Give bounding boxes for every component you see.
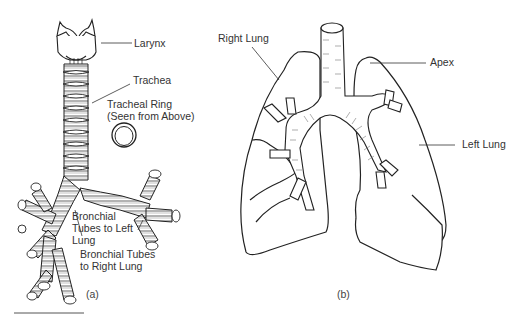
tracheal-ring-drawing — [112, 123, 136, 147]
diagram-canvas — [0, 0, 523, 320]
label-bronchial-tubes-right-lung: Bronchial Tubes to Right Lung — [80, 248, 155, 272]
caption-a: (a) — [86, 288, 99, 300]
label-apex: Apex — [430, 56, 454, 68]
label-trachea: Trachea — [133, 74, 171, 86]
left-lung-drawing — [354, 57, 446, 270]
label-larynx: Larynx — [134, 37, 166, 49]
caption-b: (b) — [337, 288, 350, 300]
larynx-drawing — [57, 20, 96, 65]
label-tracheal-ring: Tracheal Ring (Seen from Above) — [107, 98, 195, 122]
label-left-lung: Left Lung — [462, 138, 506, 150]
trachea-drawing — [63, 64, 89, 180]
label-bronchial-tubes-left-lung: Bronchial Tubes to Left Lung — [72, 210, 133, 246]
label-right-lung: Right Lung — [218, 32, 269, 44]
